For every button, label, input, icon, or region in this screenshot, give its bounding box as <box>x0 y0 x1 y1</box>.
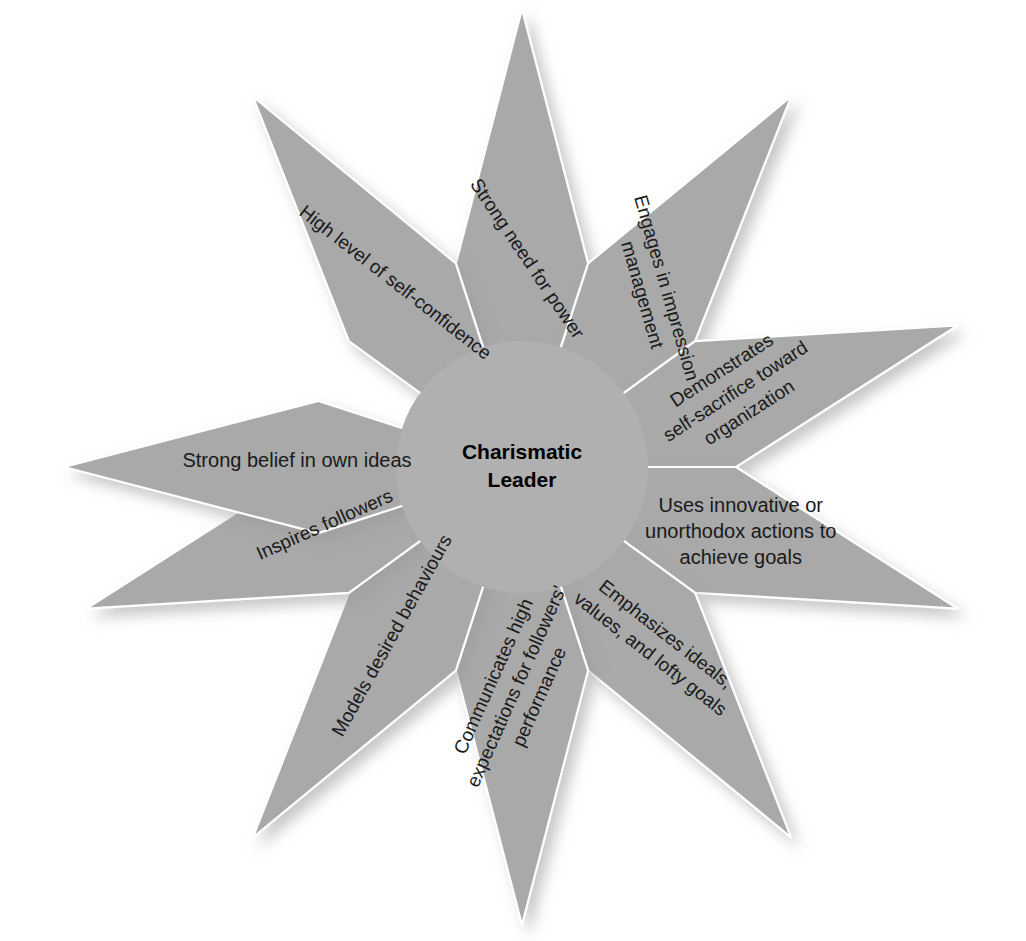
center-title-line2: Leader <box>488 468 557 491</box>
petal-label-strong-belief-in-own-ideas: Strong belief in own ideas <box>182 449 411 471</box>
diagram-canvas: Strong need for powerEngages in impressi… <box>0 0 1026 941</box>
center-title-line1: Charismatic <box>462 440 583 463</box>
petal-label-line: unorthodox actions to <box>645 520 836 542</box>
charismatic-leader-star-diagram: Strong need for powerEngages in impressi… <box>0 0 1026 941</box>
petal-label-line: Strong belief in own ideas <box>182 449 411 471</box>
petal-high-level-of-self-confidence[interactable] <box>253 96 484 394</box>
petal-label-line: Uses innovative or <box>658 494 823 516</box>
petal-label-line: achieve goals <box>680 546 802 568</box>
